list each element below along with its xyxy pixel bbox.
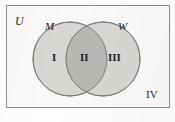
region-label-three: III — [108, 52, 121, 63]
set-label-w: W — [118, 21, 127, 32]
region-label-four: IV — [146, 89, 158, 100]
universe-label: U — [15, 15, 24, 27]
region-label-one: I — [52, 52, 56, 63]
set-label-m: M — [45, 21, 54, 32]
venn-diagram-figure: U M W I II III IV — [0, 0, 175, 122]
region-label-two: II — [80, 52, 89, 63]
